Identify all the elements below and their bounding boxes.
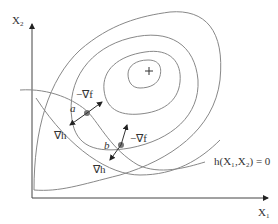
grad-h-label-b: ∇h <box>93 164 106 175</box>
y-axis-label: X2 <box>12 15 23 28</box>
constraint-curve <box>20 90 205 170</box>
contour-inner <box>128 60 161 88</box>
neg-grad-f-arrow-a <box>87 102 102 113</box>
neg-grad-f-label-b: −∇f <box>130 133 147 144</box>
point-b-label: b <box>104 140 110 151</box>
diagram-graphics <box>0 0 278 224</box>
neg-grad-f-label-a: −∇f <box>76 89 93 100</box>
axes <box>32 24 268 198</box>
x-axis-label: X1 <box>258 207 269 220</box>
optimum-marker-icon <box>145 67 153 75</box>
grad-h-arrow-a <box>70 113 87 125</box>
grad-h-label-a: ∇h <box>54 130 67 141</box>
constraint-label: h(X₁,X₂) = 0 <box>214 156 270 167</box>
neg-grad-f-arrow-b <box>121 125 127 145</box>
point-a-label: a <box>70 103 76 114</box>
contour-lines <box>34 12 221 191</box>
optimization-diagram: X2 X1 a b −∇f ∇h −∇f ∇h h(X₁,X₂) = 0 <box>0 0 278 224</box>
